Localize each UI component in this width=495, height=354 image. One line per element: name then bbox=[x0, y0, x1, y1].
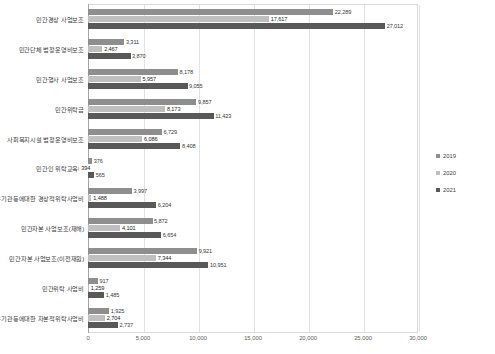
bar-group: 민간위탁 사업비9171,2591,485 bbox=[88, 273, 418, 303]
bar-group: 민간자본 사업보조(재해)5,8724,1016,654 bbox=[88, 213, 418, 243]
category-label: 민간위탁 사업비 bbox=[42, 284, 88, 293]
x-tick-label: 5,000 bbox=[136, 335, 151, 341]
bar-group: 민간단체 법정운영비보조3,3112,4673,870 bbox=[88, 34, 418, 64]
category-label: 민간자본 사업보조(재해) bbox=[21, 224, 88, 233]
bar-value-label: 11,423 bbox=[215, 113, 231, 119]
x-tick-label: 25,000 bbox=[354, 335, 372, 341]
bar-value-label: 394 bbox=[79, 164, 92, 172]
bar bbox=[88, 83, 188, 89]
bar-value-label: 8,408 bbox=[182, 143, 196, 149]
bar-group: 민간자본 사업보조(이전재원)9,9217,34410,951 bbox=[88, 243, 418, 273]
x-axis-ticks: 05,00010,00015,00020,00025,00030,000 bbox=[88, 335, 418, 349]
category-label: 민간자본 사업보조(이전재원) bbox=[9, 254, 88, 263]
bar-value-label: 6,654 bbox=[163, 232, 177, 238]
legend-item[interactable]: 2021 bbox=[436, 187, 456, 193]
legend-label: 2019 bbox=[443, 153, 456, 159]
category-label: 공기관등에대한 경상적위탁사업비 bbox=[0, 194, 88, 203]
bar-value-label: 3,870 bbox=[132, 53, 146, 59]
legend-label: 2021 bbox=[443, 187, 456, 193]
bar-value-label: 1,259 bbox=[89, 284, 107, 292]
bar-value-label: 17,617 bbox=[269, 15, 290, 23]
bar bbox=[88, 202, 156, 208]
bar-value-label: 9,921 bbox=[199, 248, 213, 254]
bar-group: 공기관등에대한 자본적위탁사업비1,9252,7042,737 bbox=[88, 303, 418, 333]
legend-label: 2020 bbox=[443, 170, 456, 176]
bar-value-label: 5,957 bbox=[141, 75, 159, 83]
bar-value-label: 2,737 bbox=[120, 322, 134, 328]
x-tick-label: 15,000 bbox=[244, 335, 262, 341]
bar-group: 민간인 위탁교육비376394565 bbox=[88, 154, 418, 184]
x-tick-label: 20,000 bbox=[299, 335, 317, 341]
category-label: 민간위탁금 bbox=[55, 104, 88, 113]
bar bbox=[88, 172, 94, 178]
gridline bbox=[419, 5, 420, 332]
bar-value-label: 565 bbox=[96, 172, 105, 178]
bar bbox=[88, 232, 161, 238]
bar-group: 사회복지시설 법정운영비보조6,7296,0868,408 bbox=[88, 124, 418, 154]
bar-chart: 민간경상 사업보조22,28917,61727,012민간단체 법정운영비보조3… bbox=[0, 0, 495, 354]
bar-value-label: 1,485 bbox=[106, 292, 120, 298]
bar-value-label: 8,173 bbox=[165, 105, 183, 113]
legend-item[interactable]: 2019 bbox=[436, 153, 456, 159]
bar-value-label: 2,467 bbox=[102, 45, 120, 53]
bar-value-label: 6,729 bbox=[164, 129, 178, 135]
bar-value-label: 22,289 bbox=[335, 9, 352, 15]
bar-value-label: 7,344 bbox=[156, 254, 174, 262]
bar-value-label: 5,872 bbox=[154, 218, 168, 224]
bar-value-label: 6,086 bbox=[142, 135, 160, 143]
bar-value-label: 9,857 bbox=[198, 99, 212, 105]
bar-rows: 민간경상 사업보조22,28917,61727,012민간단체 법정운영비보조3… bbox=[88, 4, 418, 333]
bar bbox=[88, 262, 208, 268]
bar bbox=[88, 113, 214, 119]
bar bbox=[88, 69, 178, 75]
bar-value-label: 1,488 bbox=[91, 194, 109, 202]
category-label: 민간행사 사업보조 bbox=[36, 74, 88, 83]
bar-value-label: 3,997 bbox=[133, 188, 147, 194]
bar bbox=[88, 248, 197, 254]
bar-group: 공기관등에대한 경상적위탁사업비3,9971,4886,204 bbox=[88, 183, 418, 213]
bar bbox=[88, 322, 118, 328]
bar-group: 민간위탁금9,8578,17311,423 bbox=[88, 94, 418, 124]
x-tick-label: 0 bbox=[86, 335, 89, 341]
bar bbox=[88, 53, 131, 59]
bar-value-label: 27,012 bbox=[387, 23, 404, 29]
legend-swatch-icon bbox=[436, 171, 440, 175]
bar bbox=[88, 9, 333, 15]
bar-value-label: 6,204 bbox=[158, 202, 172, 208]
bar-value-label: 8,178 bbox=[179, 69, 193, 75]
legend-swatch-icon bbox=[436, 154, 440, 158]
chart-legend: 201920202021 bbox=[436, 153, 456, 193]
bar-value-label: 2,704 bbox=[105, 314, 123, 322]
bar bbox=[88, 23, 385, 29]
bar bbox=[88, 143, 180, 149]
x-tick-label: 10,000 bbox=[189, 335, 207, 341]
legend-item[interactable]: 2020 bbox=[436, 170, 456, 176]
category-label: 공기관등에대한 자본적위탁사업비 bbox=[0, 314, 88, 323]
bar-value-label: 4,101 bbox=[120, 224, 138, 232]
x-tick-label: 30,000 bbox=[409, 335, 427, 341]
bar bbox=[88, 16, 282, 22]
bar-value-label: 3,311 bbox=[126, 39, 139, 45]
category-label: 민간경상 사업보조 bbox=[36, 14, 88, 23]
bar-group: 민간행사 사업보조8,1785,9579,055 bbox=[88, 64, 418, 94]
bar-group: 민간경상 사업보조22,28917,61727,012 bbox=[88, 4, 418, 34]
category-label: 사회복지시설 법정운영비보조 bbox=[7, 134, 88, 143]
category-label: 민간단체 법정운영비보조 bbox=[19, 44, 88, 53]
legend-swatch-icon bbox=[436, 188, 440, 192]
bar-value-label: 9,055 bbox=[189, 83, 203, 89]
bar bbox=[88, 292, 104, 298]
bar-value-label: 10,951 bbox=[210, 262, 227, 268]
bar-value-label: 376 bbox=[94, 158, 103, 164]
